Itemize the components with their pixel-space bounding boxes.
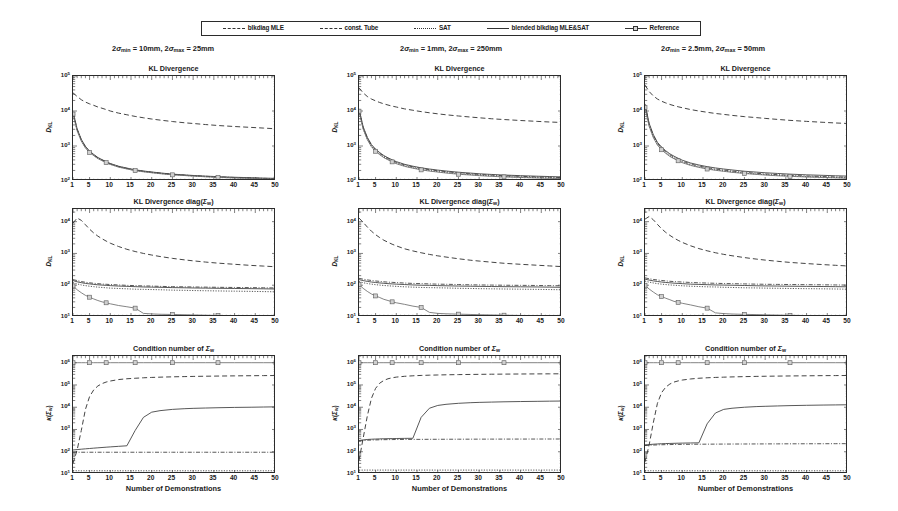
series-line-3: [73, 281, 275, 289]
x-tick-label: 5: [87, 475, 91, 482]
y-tick-label: 104: [61, 107, 70, 113]
y-tick-label: 103: [347, 249, 356, 255]
legend-swatch-2: [414, 25, 436, 32]
y-axis-title: κ(Σw): [45, 396, 53, 430]
x-tick-label: 35: [209, 318, 216, 325]
x-tick-label: 15: [126, 475, 133, 482]
x-tick-label: 25: [740, 475, 747, 482]
x-tick-label: 15: [126, 318, 133, 325]
x-tick-label: 45: [823, 475, 830, 482]
x-tick-label: 1: [356, 318, 360, 325]
series-marker: [788, 174, 792, 178]
series-marker: [788, 313, 792, 316]
x-tick-label: 50: [557, 318, 564, 325]
series-marker: [374, 294, 378, 298]
y-tick-label: 104: [347, 218, 356, 224]
x-tick-label: 10: [106, 182, 113, 189]
x-tick-label: 1: [70, 318, 74, 325]
x-tick-label: 35: [209, 182, 216, 189]
series-line-4: [73, 114, 275, 179]
x-tick-label: 25: [168, 182, 175, 189]
legend-entry-1: const. Tube: [320, 25, 379, 32]
series-marker: [88, 295, 92, 299]
x-tick-label: 1: [642, 475, 646, 482]
x-tick-label: 45: [537, 318, 544, 325]
x-tick-label: 35: [781, 475, 788, 482]
x-tick-label: 20: [433, 182, 440, 189]
series-marker: [133, 361, 137, 365]
legend-entry-2: SAT: [414, 25, 451, 32]
plot-area: [358, 208, 561, 316]
x-tick-label: 45: [251, 475, 258, 482]
x-tick-label: 35: [495, 475, 502, 482]
y-tick-label: 102: [61, 448, 70, 454]
series-marker: [788, 361, 792, 365]
x-tick-label: 25: [168, 318, 175, 325]
series-marker: [374, 361, 378, 365]
y-tick-label: 103: [347, 425, 356, 431]
x-tick-label: 25: [454, 182, 461, 189]
series-marker: [846, 361, 847, 365]
panel-title: Condition number of Σw: [358, 344, 561, 353]
y-tick-label: 103: [633, 142, 642, 148]
legend-label-0: blkdiag MLE: [248, 25, 284, 31]
series-marker: [456, 172, 460, 176]
series-line-1: [645, 278, 847, 285]
y-axis-title: DKL: [617, 244, 625, 278]
legend-entry-0: blkdiag MLE: [223, 25, 284, 32]
x-tick-label: 5: [87, 182, 91, 189]
series-line-1: [645, 444, 847, 446]
y-axis-title: DKL: [45, 244, 53, 278]
x-tick-label: 25: [454, 475, 461, 482]
series-marker: [390, 300, 394, 304]
series-marker: [390, 160, 394, 164]
y-tick-label: 104: [633, 107, 642, 113]
x-tick-label: 5: [659, 475, 663, 482]
x-tick-label: 1: [356, 182, 360, 189]
column-caption-1: 2σmin = 1mm, 2σmax = 250mm: [400, 44, 502, 53]
series-marker: [742, 312, 746, 316]
series-marker: [645, 283, 647, 287]
x-tick-label: 40: [230, 182, 237, 189]
series-marker: [456, 361, 460, 365]
panel-title: KL Divergence: [358, 64, 561, 73]
panel-title: Condition number of Σw: [644, 344, 847, 353]
series-marker: [359, 109, 361, 113]
y-tick-label: 101: [347, 313, 356, 319]
series-marker: [742, 361, 746, 365]
plot-area: [644, 208, 847, 316]
series-line-3: [359, 109, 561, 177]
x-tick-label: 50: [557, 475, 564, 482]
y-axis-title: DKL: [45, 110, 53, 144]
series-marker: [660, 361, 664, 365]
plot-area: [358, 355, 561, 473]
legend-entry-4: Reference: [625, 25, 680, 32]
x-axis-title: Number of Demonstrations: [358, 484, 561, 493]
series-marker: [216, 175, 220, 179]
y-tick-label: 105: [633, 72, 642, 78]
y-tick-label: 103: [347, 142, 356, 148]
series-marker: [374, 149, 378, 153]
series-marker: [705, 167, 709, 171]
series-marker: [645, 361, 647, 365]
legend-swatch-3: [487, 25, 509, 32]
x-tick-label: 30: [188, 182, 195, 189]
x-tick-label: 50: [843, 475, 850, 482]
series-marker: [560, 177, 561, 180]
x-tick-label: 5: [373, 475, 377, 482]
plot-area: [72, 208, 275, 316]
series-line-0: [645, 376, 847, 462]
series-line-1: [359, 110, 561, 178]
series-marker: [419, 168, 423, 172]
panel-r0-c0: KL Divergence102103104105151015202530354…: [72, 75, 275, 180]
x-tick-label: 30: [760, 182, 767, 189]
x-tick-label: 1: [642, 318, 646, 325]
panel-title: KL Divergence: [72, 64, 275, 73]
x-tick-label: 5: [373, 318, 377, 325]
series-marker: [502, 313, 506, 316]
y-tick-label: 105: [61, 72, 70, 78]
y-tick-label: 101: [61, 470, 70, 476]
series-line-4: [645, 285, 847, 316]
series-marker: [419, 305, 423, 309]
panel-r1-c2: KL Divergence diag(Σw)101102103104151015…: [644, 208, 847, 316]
